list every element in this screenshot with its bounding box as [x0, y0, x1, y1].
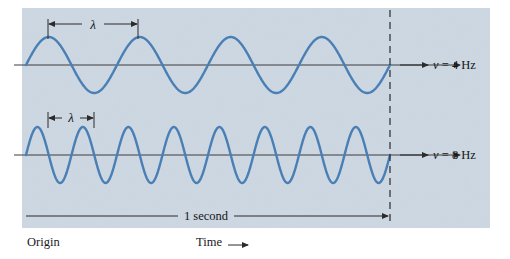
- time-axis-label: Time: [196, 235, 222, 250]
- frequency-label-4hz: ν = 4 Hz: [433, 58, 476, 73]
- frequency-label-8hz: ν = 8 Hz: [433, 148, 476, 163]
- frequency-equals-8hz: =: [442, 148, 449, 162]
- frequency-equals-4hz: =: [442, 58, 449, 72]
- frequency-value-8hz: 8: [452, 148, 458, 162]
- origin-label: Origin: [27, 235, 60, 250]
- frequency-symbol-4hz: ν: [433, 58, 439, 72]
- frequency-value-4hz: 4: [452, 58, 458, 72]
- frequency-unit-4hz: Hz: [461, 58, 476, 72]
- lambda-label-4hz: λ: [89, 17, 96, 32]
- lambda-label-8hz: λ: [67, 110, 74, 125]
- wave-frequency-figure: λ λ 1 second: [0, 0, 510, 259]
- duration-label: 1 second: [184, 209, 229, 223]
- frequency-symbol-8hz: ν: [433, 148, 439, 162]
- frequency-unit-8hz: Hz: [461, 148, 476, 162]
